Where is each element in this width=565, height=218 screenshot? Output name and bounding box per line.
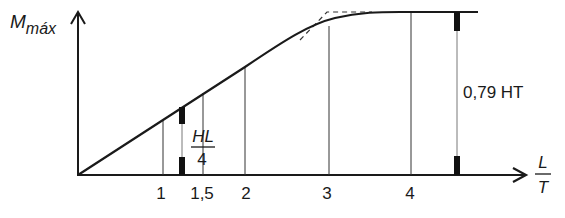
dimension-marker-bottom — [179, 157, 185, 175]
plateau-value-text: 0,79 HT — [463, 83, 523, 102]
y-axis-label: Mmáx — [10, 11, 57, 37]
y-axis-label-sub: máx — [26, 20, 57, 37]
x-tick-2: 2 — [241, 184, 250, 203]
y-axis-label-main: M — [10, 11, 26, 32]
plateau-value-label: 0,79 HT — [463, 83, 523, 102]
dimension-marker-bottom-right — [454, 156, 460, 175]
dimension-marker-top-right — [454, 12, 460, 31]
moment-curve — [78, 12, 478, 175]
moment-vs-span-diagram: HL 4 0,79 HT Mmáx L T 1 1,5 2 3 4 — [0, 0, 565, 218]
x-tick-4: 4 — [405, 184, 414, 203]
x-tick-1: 1 — [156, 184, 165, 203]
x-tick-1-5: 1,5 — [190, 184, 214, 203]
x-axis-label-denominator: T — [538, 178, 550, 197]
x-axis-label-numerator: L — [538, 153, 547, 172]
x-tick-3: 3 — [322, 184, 331, 203]
hl4-numerator: HL — [192, 127, 214, 146]
hl4-denominator: 4 — [197, 150, 206, 169]
dimension-marker-top — [179, 107, 185, 124]
